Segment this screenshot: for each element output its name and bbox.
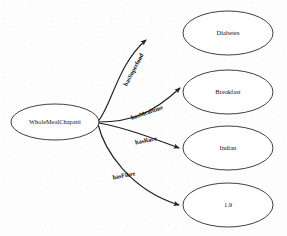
node-indian[interactable]: Indian [183, 126, 273, 170]
node-label-breakfast: Breakfast [215, 88, 240, 95]
node-breakfast[interactable]: Breakfast [183, 70, 273, 114]
diagram-canvas: WholeMealChapatti Diabetes Breakfast Ind… [0, 0, 287, 236]
edge-label-group: hasSuperfood hasMealtime hasRace hasFibr… [112, 52, 164, 180]
node-whole-meal-chapatti[interactable]: WholeMealChapatti [11, 104, 99, 140]
node-label-diabetes: Diabetes [216, 29, 240, 36]
node-label-whole-meal-chapatti: WholeMealChapatti [29, 118, 81, 125]
node-fibre-value[interactable]: 1.9 [183, 183, 273, 227]
edge-label-has-superfood: hasSuperfood [122, 52, 144, 87]
edge-label-has-mealtime: hasMealtime [130, 104, 164, 121]
node-diabetes[interactable]: Diabetes [183, 11, 273, 55]
ontology-graph: WholeMealChapatti Diabetes Breakfast Ind… [0, 0, 287, 236]
edge-has-superfood [99, 40, 147, 121]
node-label-fibre-value: 1.9 [224, 201, 233, 208]
edge-label-has-race: hasRace [135, 135, 158, 145]
node-label-indian: Indian [220, 144, 238, 151]
edge-has-fibre [98, 124, 179, 205]
